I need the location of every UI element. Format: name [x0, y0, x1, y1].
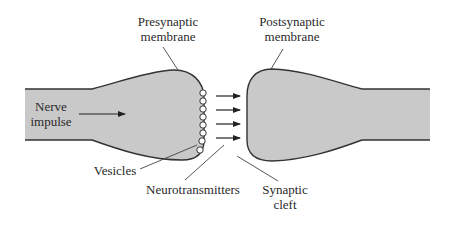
synapse-diagram: Presynaptic membrane Postsynaptic membra… — [0, 0, 449, 225]
synaptic-cleft-label-line2: cleft — [255, 197, 315, 212]
nerve-impulse-label-line2: impulse — [27, 114, 75, 129]
vesicle — [200, 106, 206, 112]
presynaptic-membrane-label: Presynaptic membrane — [128, 14, 208, 44]
vesicle — [199, 138, 205, 144]
vesicle — [200, 114, 206, 120]
vesicle — [200, 122, 206, 128]
neurotransmitter-arrows — [216, 96, 240, 138]
nerve-impulse-label: Nerve impulse — [27, 99, 75, 129]
presynaptic-label-line1: Presynaptic — [128, 14, 208, 29]
vesicles-label: Vesicles — [90, 163, 140, 178]
vesicle — [200, 90, 206, 96]
presynaptic-leader-line — [163, 47, 178, 70]
vesicle — [197, 147, 203, 153]
postsynaptic-label-line2: membrane — [250, 29, 334, 44]
synaptic-cleft-label-line1: Synaptic — [255, 182, 315, 197]
nerve-impulse-label-line1: Nerve — [27, 99, 75, 114]
presynaptic-label-line2: membrane — [128, 29, 208, 44]
postsynaptic-leader-line — [271, 49, 283, 69]
neurotransmitters-label: Neurotransmitters — [138, 182, 248, 197]
postsynaptic-membrane-label: Postsynaptic membrane — [250, 14, 334, 44]
vesicle — [200, 130, 206, 136]
neurotransmitters-label-text: Neurotransmitters — [138, 182, 248, 197]
postsynaptic-label-line1: Postsynaptic — [250, 14, 334, 29]
synaptic-cleft-label: Synaptic cleft — [255, 182, 315, 212]
vesicle — [200, 98, 206, 104]
vesicles-label-text: Vesicles — [90, 163, 140, 178]
